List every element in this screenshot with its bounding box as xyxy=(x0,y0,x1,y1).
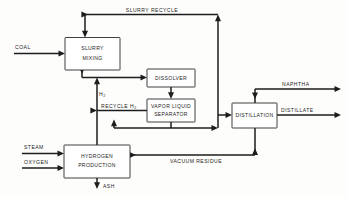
flowsheet-canvas: SLURRY MIXING DISSOLVER VAPOR LIQUID SEP… xyxy=(0,0,348,197)
stream-dissolver-to-separator xyxy=(168,87,174,99)
process-flow-diagram: SLURRY MIXING DISSOLVER VAPOR LIQUID SEP… xyxy=(0,0,348,197)
unit-slurry-mixing-label-line2: MIXING xyxy=(82,55,102,61)
arrowhead-oxygen xyxy=(58,165,65,171)
arrowhead-separator-bottom-up xyxy=(111,120,117,127)
stream-oxygen xyxy=(22,165,64,171)
arrowhead-steam xyxy=(58,151,65,157)
arrowhead-ash xyxy=(94,182,100,189)
arrowhead-dissolver-in xyxy=(141,75,148,81)
stream-label-slurry-recycle: SLURRY RECYCLE xyxy=(126,7,178,13)
stream-label-ash: ASH xyxy=(103,183,115,189)
stream-right-riser xyxy=(215,15,221,129)
stream-label-oxygen: OXYGEN xyxy=(24,159,49,165)
unit-vapor-liquid-separator-label-line2: SEPARATOR xyxy=(154,111,188,117)
unit-distillation-label: DISTILLATION xyxy=(235,112,273,118)
unit-hydrogen-production-label-line1: HYDROGEN xyxy=(81,153,113,159)
stream-label-distillate: DISTILLATE xyxy=(281,107,314,113)
arrowhead-slurry-recycle-down xyxy=(82,31,88,38)
arrowhead-separator-bottom-right xyxy=(212,125,219,131)
stream-ash xyxy=(94,178,100,189)
arrowhead-distillate xyxy=(335,112,342,118)
arrowhead-h2-up xyxy=(94,78,100,85)
unit-hydrogen-production-label-line2: PRODUCTION xyxy=(78,162,116,168)
unit-dissolver[interactable]: DISSOLVER xyxy=(147,69,195,87)
arrowhead-separator-in xyxy=(168,92,174,99)
unit-hydrogen-production[interactable]: HYDROGEN PRODUCTION xyxy=(64,145,130,178)
stream-label-steam: STEAM xyxy=(24,144,44,150)
unit-dissolver-label: DISSOLVER xyxy=(155,75,187,81)
unit-slurry-mixing-label-line1: SLURRY xyxy=(81,45,104,51)
arrowhead-coal xyxy=(59,51,66,57)
arrowhead-distillation-in xyxy=(226,112,233,118)
stream-distillate xyxy=(277,112,341,118)
stream-label-naphtha: NAPHTHA xyxy=(282,81,310,87)
arrowhead-recycle-h2-left xyxy=(90,108,97,114)
arrowhead-vacuum-residue-down xyxy=(252,148,258,155)
stream-naphtha xyxy=(252,86,341,103)
unit-vapor-liquid-separator[interactable]: VAPOR LIQUID SEPARATOR xyxy=(147,99,195,122)
unit-vapor-liquid-separator-label-line1: VAPOR LIQUID xyxy=(151,103,191,109)
stream-steam xyxy=(22,151,64,157)
stream-to-distillation xyxy=(218,112,232,118)
stream-label-coal: COAL xyxy=(15,44,31,50)
stream-label-vacuum-residue: VACUUM RESIDUE xyxy=(170,158,222,164)
arrowhead-naphtha-up xyxy=(252,92,258,99)
stream-coal xyxy=(14,51,65,57)
unit-distillation[interactable]: DISTILLATION xyxy=(232,103,277,128)
arrowhead-naphtha xyxy=(335,86,342,92)
unit-slurry-mixing[interactable]: SLURRY MIXING xyxy=(65,38,120,71)
stream-vacuum-residue xyxy=(130,128,259,158)
stream-label-h2: H2 xyxy=(99,91,106,98)
arrowhead-riser-top xyxy=(215,15,221,22)
stream-label-recycle-h2: RECYCLE H2 xyxy=(101,103,137,110)
stream-slurry-recycle xyxy=(81,12,218,38)
arrowhead-vacuum-residue xyxy=(130,152,137,158)
